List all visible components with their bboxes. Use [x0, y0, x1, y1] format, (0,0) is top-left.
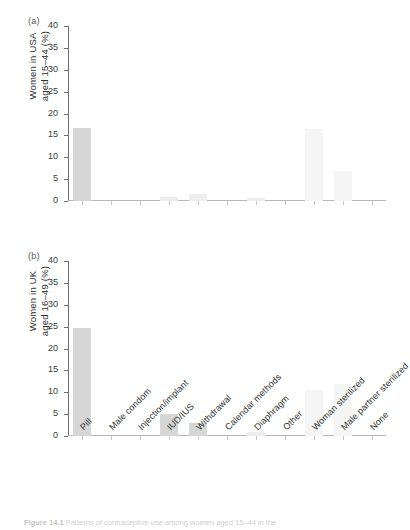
figure-caption-number: Figure 14.1	[24, 518, 64, 527]
y-tick-label: 5	[53, 408, 58, 418]
figure-caption-text: Patterns of contraceptive use among wome…	[64, 518, 277, 527]
x-axis-category-labels: PillMale condomInjection/implantIUD/IUSW…	[68, 425, 386, 525]
y-tick-label: 20	[48, 343, 58, 353]
bar	[305, 129, 323, 201]
bar	[73, 128, 91, 202]
y-tick-label: 10	[48, 386, 58, 396]
y-tick-label: 25	[48, 86, 58, 96]
y-tick-label: 40	[48, 20, 58, 30]
y-tick-label: 25	[48, 321, 58, 331]
y-tick-label: 30	[48, 299, 58, 309]
panel-b-y-axis-label-line1: Women in UK	[27, 271, 38, 332]
x-tick	[256, 201, 257, 205]
y-tick-label: 35	[48, 42, 58, 52]
x-tick	[314, 201, 315, 205]
x-tick	[343, 201, 344, 205]
y-tick-label: 20	[48, 108, 58, 118]
x-tick	[82, 201, 83, 205]
x-tick	[111, 201, 112, 205]
x-tick	[285, 201, 286, 205]
x-tick	[227, 201, 228, 205]
y-tick-label: 10	[48, 151, 58, 161]
panel-a-bars	[68, 26, 386, 201]
x-tick	[372, 201, 373, 205]
y-tick-label: 0	[53, 430, 58, 440]
y-tick-label: 15	[48, 129, 58, 139]
y-tick-label: 0	[53, 195, 58, 205]
y-tick-label: 15	[48, 364, 58, 374]
y-tick-label: 35	[48, 277, 58, 287]
y-tick-label: 5	[53, 173, 58, 183]
bar	[189, 194, 207, 201]
chart-panel-a: (a) Women in USA aged 15–44 (%) 05101520…	[0, 8, 402, 220]
y-tick: 0	[64, 201, 68, 202]
y-tick-label: 30	[48, 64, 58, 74]
bar	[334, 171, 352, 201]
x-tick	[198, 201, 199, 205]
figure-caption: Figure 14.1 Patterns of contraceptive us…	[24, 518, 384, 528]
panel-a-plot-area: 0510152025303540	[68, 26, 386, 201]
x-tick	[169, 201, 170, 205]
y-tick-label: 40	[48, 255, 58, 265]
panel-a-y-axis-label-line1: Women in USA	[27, 32, 38, 99]
x-tick	[140, 201, 141, 205]
